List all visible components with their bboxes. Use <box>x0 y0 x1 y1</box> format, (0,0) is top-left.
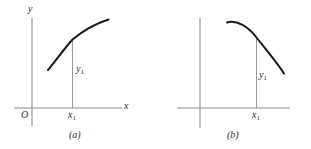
panel-b-caption: (b) <box>227 130 239 140</box>
panel-a-caption: (a) <box>69 130 81 140</box>
panel-a-abscissa-subscript: 1 <box>72 114 76 122</box>
panel-a-abscissa-label: x1 <box>68 110 76 120</box>
panel-a-ordinate-subscript: 1 <box>80 68 84 76</box>
panel-b-group <box>177 18 290 128</box>
panel-b-abscissa-subscript: 1 <box>256 114 260 122</box>
panel-b-abscissa-label: x1 <box>252 110 260 120</box>
panel-a-origin-label: O <box>21 110 28 120</box>
panel-a-x-axis-label: x <box>124 101 128 111</box>
panel-b-ordinate-label: y1 <box>259 70 267 80</box>
panel-a-y-axis-label: y <box>28 4 32 14</box>
panel-b-ordinate-subscript: 1 <box>263 74 267 82</box>
panel-b-curve <box>227 22 284 74</box>
panel-a-ordinate-label: y1 <box>76 64 84 74</box>
figure-container: y x O x1 y1 (a) x1 y1 (b) <box>0 0 311 149</box>
